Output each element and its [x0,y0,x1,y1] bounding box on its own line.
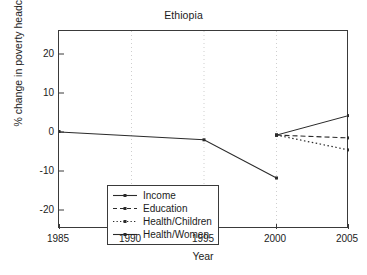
series-line-education [277,135,349,138]
x-tick-label: 1985 [36,233,80,244]
series-line-health-children [277,135,349,150]
legend-item-health-children: Health/Children [112,215,212,228]
y-tick-label: 0 [20,126,54,137]
plot-area: Income Education Health/Children [58,30,348,228]
series-line-health-women [277,116,349,136]
chart-figure: Ethiopia % change in poverty headcount 2… [0,0,367,275]
x-tick-label: 2000 [253,233,297,244]
x-axis-tick-labels: 1985 1990 1995 2000 2005 [58,233,348,249]
y-tick-label: -20 [20,204,54,215]
x-tick-label: 1995 [181,233,225,244]
legend-item-income: Income [112,189,212,202]
x-tick-label: 2005 [325,233,367,244]
legend-line-sample-dotted-icon [112,216,138,227]
y-tick-label: 20 [20,48,54,59]
y-tick-label: 10 [20,87,54,98]
legend-line-sample-solid-icon [112,190,138,201]
legend-item-education: Education [112,202,212,215]
legend-label: Education [143,203,187,214]
chart-title: Ethiopia [0,9,367,21]
legend-label: Income [143,190,176,201]
x-axis-title: Year [58,250,348,262]
y-tick-label: -10 [20,165,54,176]
x-tick-label: 1990 [108,233,152,244]
legend-label: Health/Children [143,216,212,227]
legend-line-sample-dashed-icon [112,203,138,214]
series-line-income [60,132,277,178]
